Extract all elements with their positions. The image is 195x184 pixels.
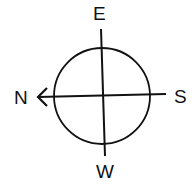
horizontal-axis (38, 94, 166, 97)
label-left: N (14, 87, 28, 108)
compass-diagram: E S N W (0, 0, 195, 184)
label-bottom: W (96, 161, 114, 182)
label-right: S (174, 86, 187, 107)
label-top: E (93, 3, 106, 24)
